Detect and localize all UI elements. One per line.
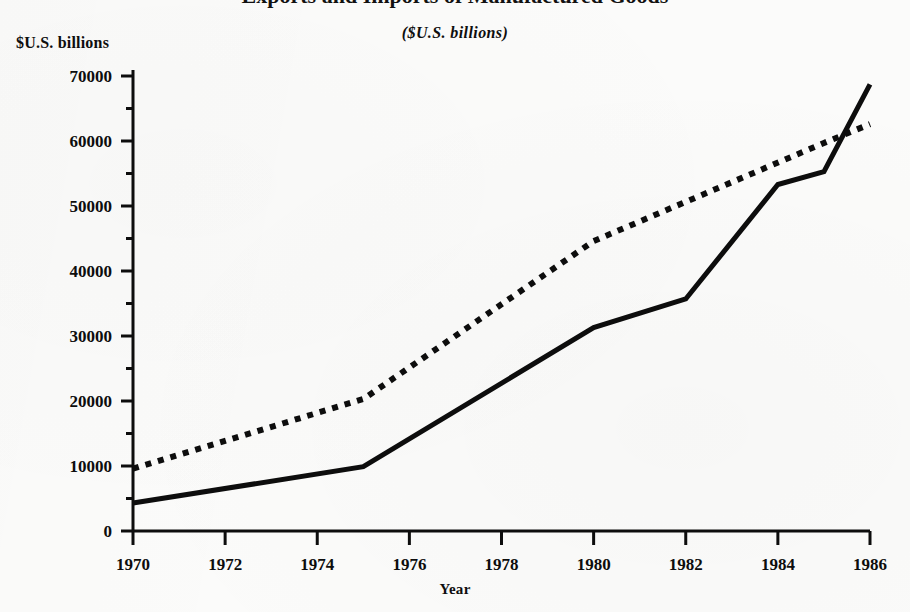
x-tick-label: 1984	[761, 555, 796, 574]
x-tick-label: 1986	[853, 555, 887, 574]
x-tick-label: 1972	[208, 555, 242, 574]
y-tick-label: 20000	[70, 392, 113, 411]
y-tick-label: 60000	[70, 132, 113, 151]
x-tick-label: 1980	[577, 555, 611, 574]
y-tick-group: 010000200003000040000500006000070000	[70, 67, 134, 541]
series-line-solid-series	[133, 84, 870, 503]
x-tick-label: 1970	[116, 555, 150, 574]
series-group	[133, 84, 870, 503]
x-tick-group: 197019721974197619781980198219841986	[116, 531, 887, 574]
axis-group	[133, 70, 870, 531]
chart-root: Exports and Imports of Manufactured Good…	[0, 0, 910, 612]
y-tick-label: 30000	[70, 327, 113, 346]
line-chart-plot: 010000200003000040000500006000070000 197…	[0, 0, 910, 612]
x-tick-label: 1978	[485, 555, 519, 574]
series-line-dotted-series	[133, 124, 870, 469]
x-tick-label: 1976	[392, 555, 426, 574]
y-tick-label: 40000	[70, 262, 113, 281]
y-tick-label: 10000	[70, 457, 113, 476]
y-tick-label: 0	[104, 522, 113, 541]
y-tick-label: 50000	[70, 197, 113, 216]
y-tick-label: 70000	[70, 67, 113, 86]
x-tick-label: 1974	[300, 555, 335, 574]
x-tick-label: 1982	[669, 555, 703, 574]
